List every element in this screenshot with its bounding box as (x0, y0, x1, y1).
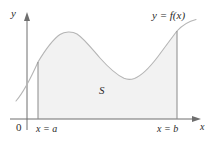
y-axis-arrow-icon (24, 12, 30, 21)
shaded-region-S (38, 31, 177, 119)
area-under-curve-figure: y x 0 y = f(x) S x = a x = b (0, 0, 212, 147)
figure-canvas (0, 0, 212, 147)
left-bound-label: x = a (36, 124, 57, 134)
region-label: S (99, 85, 105, 96)
function-label: y = f(x) (152, 10, 185, 21)
right-bound-label: x = b (157, 124, 178, 134)
x-axis-label: x (200, 122, 204, 132)
origin-label: 0 (16, 122, 22, 133)
y-axis-label: y (11, 8, 16, 19)
